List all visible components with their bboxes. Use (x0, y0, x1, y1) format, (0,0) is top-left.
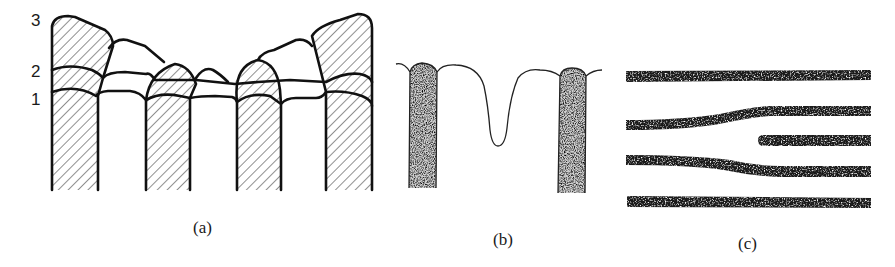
lamella-4-bending (626, 155, 871, 177)
panel-c: (c) (626, 70, 871, 253)
layer-label-1: 1 (31, 90, 40, 109)
stippled-column-right (558, 68, 586, 193)
caption-c: (c) (738, 234, 757, 253)
hatched-grains (52, 14, 372, 190)
layer-label-3: 3 (31, 11, 40, 30)
lamella-2-bending (626, 106, 871, 130)
caption-a: (a) (193, 218, 212, 237)
lamella-5 (627, 196, 871, 208)
lamella-1 (626, 70, 871, 82)
figure-canvas: 3 2 1 (0, 0, 895, 267)
stippled-column-left (409, 63, 437, 188)
panel-b: (b) (396, 63, 602, 249)
lamella-3-terminating (758, 135, 871, 146)
panel-a: 3 2 1 (31, 11, 372, 237)
caption-b: (b) (493, 230, 513, 249)
layer-label-2: 2 (31, 62, 40, 81)
